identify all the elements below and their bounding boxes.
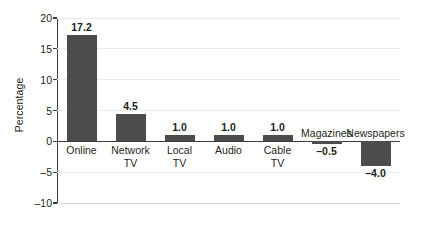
y-axis-tick-label: –5: [24, 167, 52, 177]
bar-value-label: 4.5: [123, 101, 138, 112]
bar-category-label-line: Cable: [264, 144, 291, 157]
bar-category-label-line: Audio: [215, 144, 242, 157]
bar-category-label-line: Online: [66, 144, 96, 157]
bar-category-label: NetworkTV: [111, 144, 150, 169]
y-axis-tick-label: 0: [24, 136, 52, 146]
y-axis-tick-label: 10: [24, 75, 52, 85]
bar-group[interactable]: 1.0CableTV: [253, 18, 302, 203]
bar-category-label-line: Newspapers: [346, 127, 404, 140]
bar-value-label: 17.2: [71, 22, 91, 33]
bar-value-label: –4.0: [365, 168, 385, 179]
bar-category-label: CableTV: [264, 144, 291, 169]
bar-value-label: 1.0: [172, 122, 187, 133]
bar-category-label: LocalTV: [167, 144, 192, 169]
bar-category-label-line: TV: [111, 157, 150, 170]
bar[interactable]: [361, 141, 391, 166]
bar-group[interactable]: –0.5Magazines: [302, 18, 351, 203]
bar[interactable]: [116, 114, 146, 142]
plot-area: 17.2Online4.5NetworkTV1.0LocalTV1.0Audio…: [57, 18, 400, 203]
y-axis-tick-label: 20: [24, 13, 52, 23]
bar-category-label: Audio: [215, 144, 242, 157]
bar-group[interactable]: 1.0Audio: [204, 18, 253, 203]
bar[interactable]: [263, 135, 293, 141]
bar-group[interactable]: 17.2Online: [57, 18, 106, 203]
bar-category-label-line: TV: [167, 157, 192, 170]
bar-value-label: –0.5: [316, 146, 336, 157]
bar-group[interactable]: 1.0LocalTV: [155, 18, 204, 203]
bar-value-label: 1.0: [221, 122, 236, 133]
y-axis-tick-label: –10: [24, 198, 52, 208]
bar-value-label: 1.0: [270, 122, 285, 133]
bar[interactable]: [214, 135, 244, 141]
bar-group[interactable]: –4.0Newspapers: [351, 18, 400, 203]
y-axis-tick-label: 15: [24, 44, 52, 54]
bar-group[interactable]: 4.5NetworkTV: [106, 18, 155, 203]
bar-category-label: Newspapers: [346, 127, 404, 140]
y-axis-tick-label: 5: [24, 106, 52, 116]
bar-category-label: Online: [66, 144, 96, 157]
bar-category-label-line: Local: [167, 144, 192, 157]
bar-chart: Percentage 20151050–5–10 17.2Online4.5Ne…: [0, 0, 423, 231]
bar-category-label-line: Network: [111, 144, 150, 157]
bar[interactable]: [67, 35, 97, 141]
bar-category-label-line: Magazines: [301, 127, 352, 140]
bar-category-label-line: TV: [264, 157, 291, 170]
y-axis-tick-labels: 20151050–5–10: [22, 0, 52, 231]
bar-category-label: Magazines: [301, 127, 352, 140]
bar[interactable]: [165, 135, 195, 141]
